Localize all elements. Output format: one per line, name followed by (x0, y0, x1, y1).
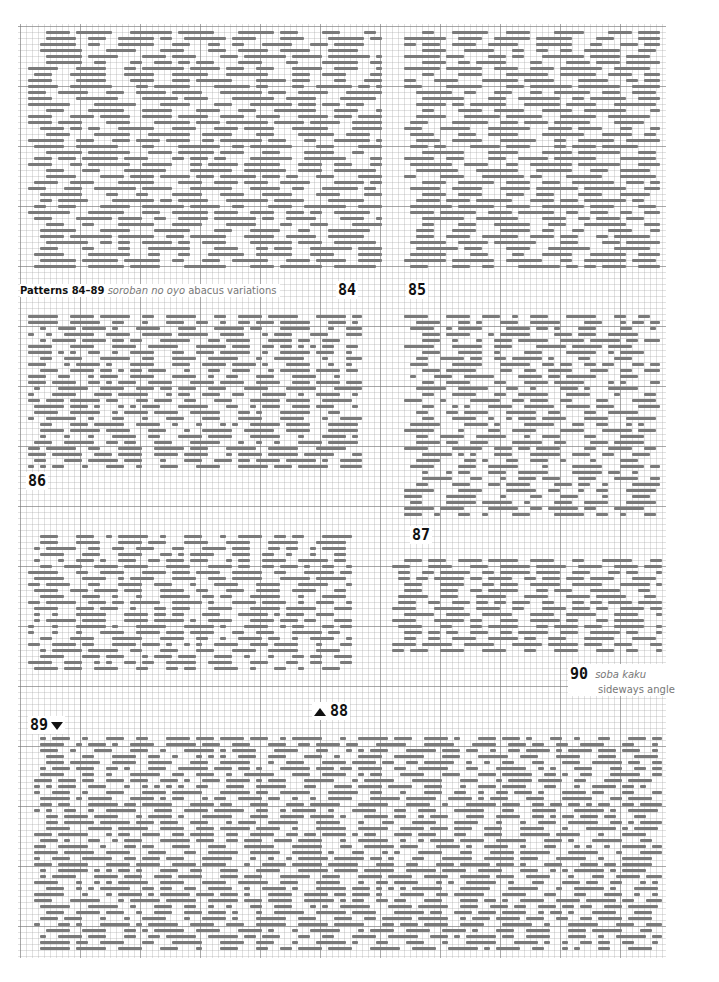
stitch-bar (208, 601, 214, 604)
stitch-bar (446, 333, 470, 336)
stitch-bar (76, 217, 112, 220)
stitch-bar (400, 887, 406, 890)
stitch-bar (178, 217, 208, 220)
stitch-bar (652, 773, 662, 776)
stitch-bar (154, 411, 178, 414)
stitch-bar (190, 235, 226, 238)
stitch-bar (574, 869, 604, 872)
stitch-bar (172, 613, 184, 616)
stitch-bar (458, 321, 470, 324)
stitch-bar (292, 797, 298, 800)
stitch-bar (424, 785, 442, 788)
stitch-bar (400, 827, 424, 830)
stitch-bar (502, 761, 514, 764)
stitch-bar (268, 541, 298, 544)
stitch-bar (584, 363, 596, 366)
stitch-bar (154, 217, 166, 220)
stitch-bar (358, 803, 388, 806)
stitch-bar (470, 565, 488, 568)
stitch-bar (568, 923, 598, 926)
stitch-bar (226, 589, 244, 592)
stitch-bar (232, 649, 256, 652)
stitch-bar (584, 223, 626, 226)
stitch-bar (232, 43, 244, 46)
stitch-bar (316, 259, 346, 262)
stitch-bar (506, 489, 536, 492)
stitch-bar (446, 157, 464, 160)
stitch-bar (656, 631, 662, 634)
stitch-bar (34, 205, 46, 208)
label-90-italic: soba kaku (595, 669, 646, 680)
stitch-bar (422, 453, 452, 456)
stitch-bar (268, 929, 274, 932)
stitch-bar (250, 435, 280, 438)
stitch-bar (452, 139, 482, 142)
stitch-bar (244, 845, 274, 848)
stitch-bar (512, 357, 542, 360)
stitch-bar (106, 779, 124, 782)
stitch-bar (340, 899, 346, 902)
stitch-bar (274, 571, 286, 574)
stitch-bar (542, 151, 572, 154)
stitch-bar (64, 333, 94, 336)
stitch-bar (244, 935, 256, 938)
stitch-bar (580, 917, 592, 920)
stitch-bar (76, 139, 94, 142)
stitch-bar (250, 595, 280, 598)
stitch-bar (220, 423, 226, 426)
stitch-bar (458, 241, 488, 244)
stitch-bar (298, 115, 328, 118)
stitch-bar (464, 163, 488, 166)
stitch-bar (214, 217, 256, 220)
stitch-bar (340, 643, 352, 646)
stitch-bar (574, 809, 604, 812)
stitch-bar (568, 911, 574, 914)
stitch-bar (440, 595, 458, 598)
stitch-bar (478, 737, 496, 740)
stitch-bar (232, 423, 238, 426)
stitch-bar (644, 393, 656, 396)
stitch-bar (220, 351, 250, 354)
stitch-bar (428, 565, 452, 568)
stitch-bar (34, 923, 40, 926)
stitch-bar (574, 947, 580, 950)
stitch-bar (142, 417, 148, 420)
stitch-bar (430, 839, 454, 842)
stitch-bar (548, 489, 560, 492)
stitch-bar (358, 821, 364, 824)
stitch-bar (638, 265, 660, 268)
stitch-bar (160, 881, 184, 884)
stitch-bar (40, 423, 52, 426)
stitch-bar (34, 613, 40, 616)
stitch-bar (28, 453, 46, 456)
stitch-bar (142, 357, 154, 360)
stitch-bar (286, 429, 310, 432)
stitch-bar (250, 211, 274, 214)
stitch-bar (328, 235, 364, 238)
stitch-bar (346, 749, 352, 752)
stitch-bar (118, 541, 142, 544)
stitch-bar (256, 631, 274, 634)
stitch-bar (298, 743, 310, 746)
stitch-bar (190, 163, 202, 166)
stitch-bar (172, 833, 184, 836)
stitch-bar (562, 905, 574, 908)
stitch-bar (220, 761, 250, 764)
stitch-bar (530, 175, 542, 178)
stitch-bar (410, 375, 416, 378)
stitch-bar (512, 399, 524, 402)
stitch-bar (532, 809, 556, 812)
stitch-bar (130, 339, 142, 342)
stitch-bar (452, 339, 458, 342)
stitch-bar (392, 565, 410, 568)
stitch-bar (500, 477, 506, 480)
stitch-bar (556, 749, 562, 752)
stitch-bar (436, 863, 454, 866)
stitch-bar (118, 393, 148, 396)
stitch-bar (596, 607, 608, 610)
stitch-bar (458, 513, 470, 516)
stitch-bar (220, 875, 238, 878)
stitch-bar (28, 465, 34, 468)
stitch-bar (196, 773, 214, 776)
stitch-bar (364, 187, 376, 190)
